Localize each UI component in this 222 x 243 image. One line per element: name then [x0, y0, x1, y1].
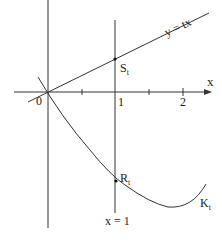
point-s [113, 57, 116, 60]
x-axis-label: x [207, 74, 214, 89]
x-axis-arrow-icon [204, 89, 212, 95]
diagram: y = tx x 0 1 2 St Rt Kt x = 1 [0, 0, 222, 243]
tick-label-2: 2 [180, 95, 186, 109]
tick-label-1: 1 [118, 95, 124, 109]
point-r-label: Rt [120, 171, 131, 187]
point-r [114, 179, 117, 182]
line-label: y = tx [162, 15, 193, 40]
diagram-svg: y = tx x 0 1 2 St Rt Kt x = 1 [0, 0, 222, 243]
curve-label: Kt [200, 196, 212, 212]
vertical-line-label: x = 1 [105, 214, 130, 228]
point-s-label: St [120, 61, 130, 77]
origin-label: 0 [36, 94, 42, 108]
